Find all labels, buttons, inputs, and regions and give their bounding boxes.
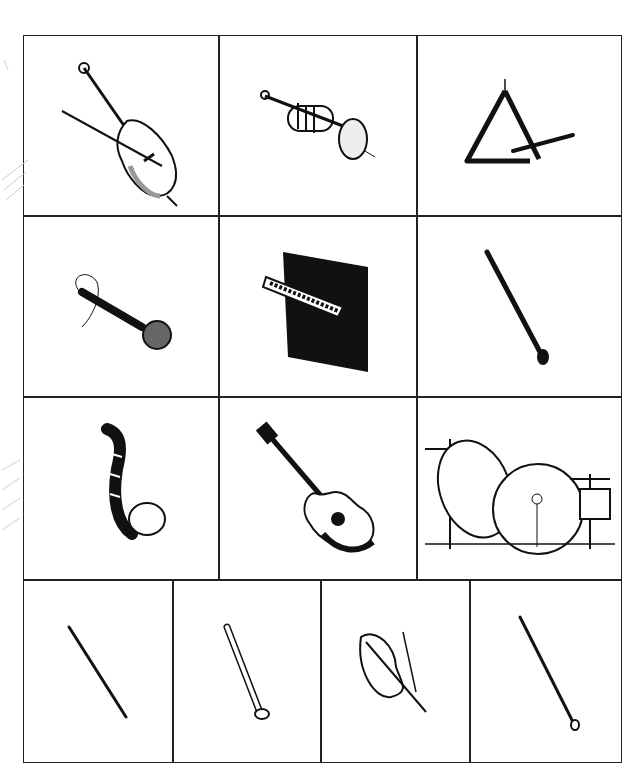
saxophone-icon [62, 409, 182, 569]
cell-guitar[interactable] [220, 398, 416, 579]
piano-icon [258, 237, 378, 377]
cell-recorder[interactable] [174, 581, 320, 763]
cell-saxophone[interactable] [25, 398, 218, 579]
guitar-icon [248, 414, 388, 564]
flute-icon [64, 622, 134, 722]
triangle-icon [455, 71, 585, 181]
recorder-icon [217, 622, 277, 722]
drum-kit-icon [420, 419, 620, 559]
cell-triangle[interactable] [418, 37, 622, 215]
cell-trumpet[interactable] [220, 37, 416, 215]
cell-oboe[interactable] [471, 581, 622, 763]
cell-violin[interactable] [322, 581, 469, 763]
violin-icon [351, 622, 441, 722]
pencil-scribble-icon [0, 460, 22, 560]
cell-clarinet[interactable] [418, 217, 622, 396]
cell-microphone[interactable] [25, 217, 218, 396]
cell-drum-kit[interactable] [418, 398, 622, 579]
clarinet-icon [475, 247, 565, 367]
cell-cello[interactable] [25, 37, 218, 215]
cello-icon [42, 46, 202, 206]
microphone-icon [62, 257, 182, 357]
oboe-icon [512, 612, 582, 732]
trumpet-icon [253, 81, 383, 171]
cell-flute[interactable] [25, 581, 172, 763]
cell-piano[interactable] [220, 217, 416, 396]
